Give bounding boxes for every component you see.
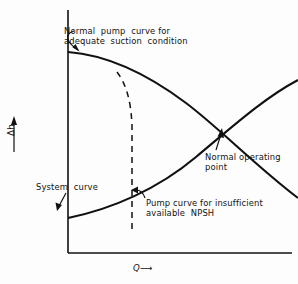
x-axis-label: Q⟶: [133, 263, 151, 273]
insufficient-npsh-pump-curve: [117, 72, 132, 232]
leader-system-curve: [56, 193, 67, 211]
x-axis-arrow-icon: ⟶: [140, 263, 151, 273]
label-pump-curve-insufficient-npsh: Pump curve for insufficient available NP…: [146, 198, 263, 219]
pump-system-curve-diagram: Normal pump curve for adequate suction c…: [0, 0, 298, 284]
label-normal-pump-curve: Normal pump curve for adequate suction c…: [64, 26, 188, 47]
x-axis-label-text: Q: [133, 263, 140, 273]
y-axis-label: Δh: [6, 124, 16, 136]
normal-pump-curve: [68, 52, 298, 198]
label-system-curve: System curve: [36, 182, 98, 192]
label-normal-operating-point: Normal operating point: [205, 152, 281, 173]
